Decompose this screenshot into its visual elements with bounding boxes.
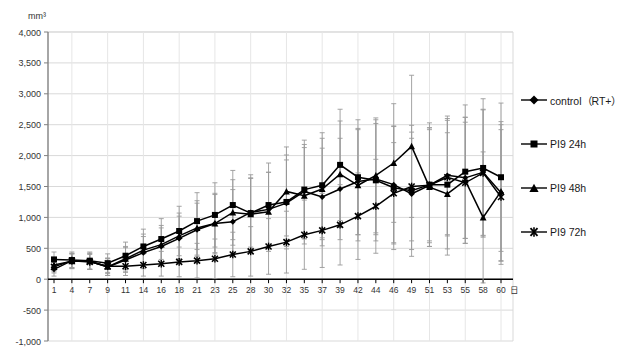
x-tick-label: 37 <box>317 285 327 295</box>
data-series <box>51 143 505 272</box>
x-tick-label: 55 <box>461 285 471 295</box>
x-tick-label: 46 <box>389 285 399 295</box>
legend-item-pi9-72h[interactable]: PI9 72h <box>521 210 639 254</box>
data-point-diamond <box>319 194 325 200</box>
legend-label-pi9-72h: PI9 72h <box>547 226 586 238</box>
data-point-square <box>462 169 468 175</box>
data-point-triangle <box>408 143 415 150</box>
y-tick-label: 1,500 <box>18 182 41 192</box>
y-tick-label: -500 <box>23 306 41 316</box>
legend-item-pi9-48h[interactable]: PI9 48h <box>521 166 639 210</box>
y-tick-label: 500 <box>26 244 41 254</box>
x-tick-label: 21 <box>192 285 202 295</box>
y-tick-label: 3,500 <box>18 58 41 68</box>
data-point-triangle <box>283 188 290 195</box>
legend-label-pi9-24h: PI9 24h <box>547 138 586 150</box>
diamond-marker-icon <box>521 93 547 107</box>
x-axis <box>48 279 513 283</box>
y-tick-label: 4,000 <box>18 28 41 38</box>
x-tick-label: 1 <box>52 285 57 295</box>
data-point-diamond <box>230 219 236 225</box>
legend-label-pi9-48h: PI9 48h <box>547 182 586 194</box>
data-point-square <box>444 182 450 188</box>
x-tick-label: 23 <box>210 285 220 295</box>
y-tick-label: 3,000 <box>18 89 41 99</box>
x-tick-label: 51 <box>425 285 435 295</box>
data-point-square <box>230 202 236 208</box>
data-point-square <box>212 212 218 218</box>
x-tick-label: 44 <box>371 285 381 295</box>
legend-item-pi9-24h[interactable]: PI9 24h <box>521 122 639 166</box>
cross-marker-icon <box>521 225 547 239</box>
x-tick-label: 30 <box>264 285 274 295</box>
y-tick-label: 2,000 <box>18 151 41 161</box>
x-tick-label: 28 <box>246 285 256 295</box>
data-point-square <box>337 162 343 168</box>
data-point-square <box>194 218 200 224</box>
x-tick-label: 16 <box>157 285 167 295</box>
y-tick-label: 2,500 <box>18 120 41 130</box>
data-point-square <box>283 199 289 205</box>
x-tick-label: 14 <box>139 285 149 295</box>
data-point-square <box>498 174 504 180</box>
x-tick-label: 18 <box>174 285 184 295</box>
y-tick-label: 1,000 <box>18 213 41 223</box>
chart-page: mm³ 4,0003,5003,0002,5002,0001,5001,0005… <box>0 0 641 361</box>
x-tick-label: 53 <box>443 285 453 295</box>
square-marker-icon <box>521 137 547 151</box>
triangle-marker-icon <box>521 181 547 195</box>
x-tick-label: 49 <box>407 285 417 295</box>
x-axis-unit-label: 日 <box>510 285 519 295</box>
legend-label-control: control（RT+） <box>547 93 621 108</box>
x-tick-label: 35 <box>300 285 310 295</box>
y-tick-label: 0 <box>36 275 41 285</box>
data-point-square <box>301 187 307 193</box>
x-tick-label: 39 <box>335 285 345 295</box>
x-tick-label: 9 <box>105 285 110 295</box>
chart-legend: control（RT+） PI9 24h PI9 48h PI9 72h <box>521 78 639 254</box>
legend-item-control[interactable]: control（RT+） <box>521 78 639 122</box>
data-point-triangle <box>158 241 165 248</box>
x-tick-label: 58 <box>478 285 488 295</box>
data-point-square <box>266 202 272 208</box>
x-tick-label: 60 <box>496 285 506 295</box>
error-bars <box>52 75 504 283</box>
x-tick-label: 42 <box>353 285 363 295</box>
data-point-triangle <box>337 171 344 178</box>
x-tick-label: 11 <box>121 285 130 295</box>
x-tick-label: 7 <box>87 285 92 295</box>
x-tick-labels: 1479111416182123252830323537394244464951… <box>52 285 519 295</box>
data-point-square <box>355 174 361 180</box>
x-tick-label: 32 <box>282 285 292 295</box>
y-axis <box>44 32 48 341</box>
y-tick-labels: 4,0003,5003,0002,5002,0001,5001,0005000-… <box>15 28 41 347</box>
x-tick-label: 25 <box>228 285 238 295</box>
y-tick-label: -1,000 <box>15 337 41 347</box>
x-tick-label: 4 <box>70 285 75 295</box>
